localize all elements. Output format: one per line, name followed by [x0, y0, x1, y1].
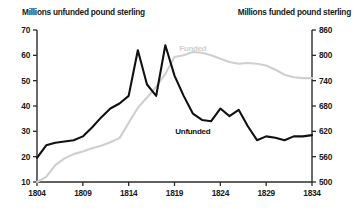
- x-tick-label: 1824: [212, 188, 230, 198]
- y-axis-left-ticks: 10203040506070: [21, 25, 37, 187]
- y-tick-label-left: 10: [21, 177, 30, 187]
- y-axis-right-ticks: 500560620680740800860: [312, 25, 333, 187]
- x-tick-label: 1819: [166, 188, 184, 198]
- series-line-funded: [37, 52, 312, 182]
- x-tick-label: 1834: [303, 188, 321, 198]
- y-tick-label-right: 680: [319, 101, 333, 111]
- x-tick-label: 1809: [74, 188, 92, 198]
- y-tick-label-right: 800: [319, 50, 333, 60]
- axis-lines: [37, 30, 312, 182]
- series-label-funded: Funded: [179, 44, 206, 53]
- chart-plot-area: 10203040506070 500560620680740800860 180…: [0, 0, 359, 212]
- y-tick-label-left: 50: [21, 76, 30, 86]
- series-line-unfunded: [37, 45, 312, 158]
- y-tick-label-left: 20: [21, 152, 30, 162]
- y-tick-label-left: 60: [21, 50, 30, 60]
- y-tick-label-right: 500: [319, 177, 333, 187]
- y-tick-label-right: 560: [319, 152, 333, 162]
- chart-container: Millions unfunded pound sterling Million…: [0, 0, 359, 212]
- y-tick-label-right: 740: [319, 76, 333, 86]
- x-tick-label: 1804: [28, 188, 46, 198]
- x-tick-label: 1814: [120, 188, 138, 198]
- y-tick-label-left: 70: [21, 25, 30, 35]
- series-label-unfunded: Unfunded: [175, 127, 210, 136]
- y-tick-label-left: 30: [21, 126, 30, 136]
- y-tick-label-left: 40: [21, 101, 30, 111]
- x-tick-label: 1829: [258, 188, 276, 198]
- y-tick-label-right: 620: [319, 126, 333, 136]
- x-axis-ticks: 1804180918141819182418291834: [28, 182, 321, 198]
- y-tick-label-right: 860: [319, 25, 333, 35]
